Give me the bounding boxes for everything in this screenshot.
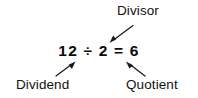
divisor-arrow-icon xyxy=(110,26,134,44)
quotient-label: Quotient xyxy=(126,78,178,92)
division-terms-diagram: Divisor 12 ÷ 2 = 6 Dividend Quotient xyxy=(0,0,198,98)
dividend-label: Dividend xyxy=(16,78,69,92)
quotient-arrow-icon xyxy=(126,62,145,77)
divisor-label: Divisor xyxy=(117,4,159,18)
dividend-arrow-icon xyxy=(56,62,76,77)
division-equation: 12 ÷ 2 = 6 xyxy=(0,43,198,59)
